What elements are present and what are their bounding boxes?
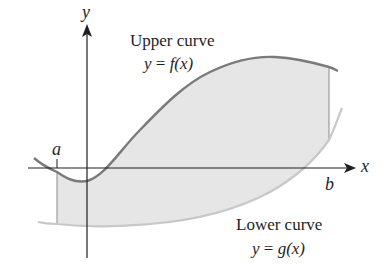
lower-eq-lhs: y <box>252 239 260 258</box>
bound-a-label: a <box>52 140 61 158</box>
upper-eq-equals: = <box>156 54 166 73</box>
lower-curve-equation: y = g(x) <box>252 240 305 257</box>
upper-eq-rhs: f(x) <box>170 54 194 73</box>
upper-eq-lhs: y <box>144 54 152 73</box>
bound-b-label: b <box>325 175 334 193</box>
upper-curve-title: Upper curve <box>130 32 215 49</box>
lower-eq-equals: = <box>264 239 274 258</box>
x-axis-label: x <box>361 157 369 175</box>
upper-curve-equation: y = f(x) <box>144 55 193 72</box>
area-between-curves-diagram: y x a b Upper curve y = f(x) Lower curve… <box>0 0 391 264</box>
lower-eq-rhs: g(x) <box>278 239 305 258</box>
y-axis-label: y <box>82 3 90 21</box>
lower-curve-title: Lower curve <box>236 216 322 233</box>
